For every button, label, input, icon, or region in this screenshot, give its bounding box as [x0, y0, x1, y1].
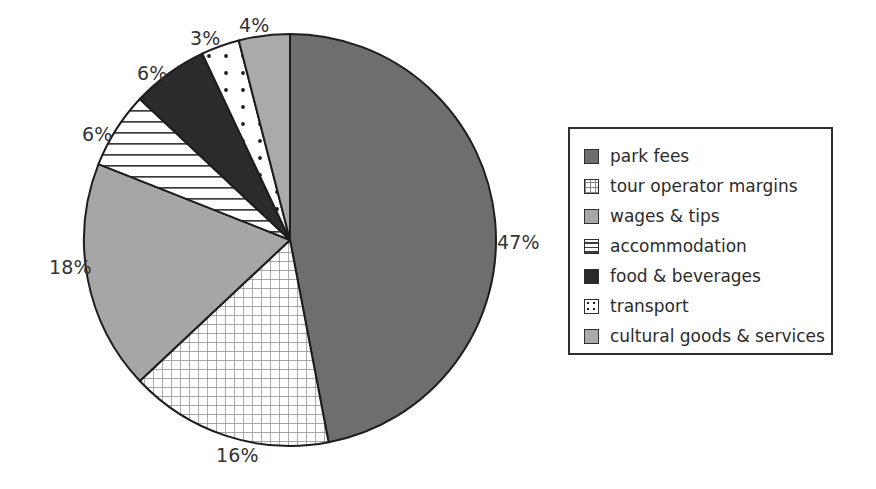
swatch-dotted-icon [584, 299, 599, 314]
legend-item-food-beverages[interactable]: food & beverages [584, 261, 831, 291]
legend-item-label: cultural goods & services [610, 328, 825, 345]
swatch-solid-black-icon [584, 269, 599, 284]
legend-item-cultural-goods-services[interactable]: cultural goods & services [584, 321, 831, 351]
swatch-solid-light-gray-icon [584, 209, 599, 224]
legend-item-wages-tips[interactable]: wages & tips [584, 201, 831, 231]
pie-chart-figure: 47%16%18%6%6%3%4% park feestour operator… [0, 0, 876, 489]
swatch-horizontal-lines-icon [584, 239, 599, 254]
swatch-grid-hatch-icon [584, 179, 599, 194]
pie-value-label: 18% [49, 256, 92, 278]
pie-slices-group [84, 34, 496, 446]
pie-slice-park-fees[interactable] [290, 34, 496, 442]
pie-value-label: 4% [239, 14, 270, 36]
legend-item-label: accommodation [610, 238, 747, 255]
legend-item-label: tour operator margins [610, 178, 798, 195]
pie-value-label: 16% [216, 444, 259, 466]
legend-item-label: food & beverages [610, 268, 761, 285]
legend-item-label: wages & tips [610, 208, 720, 225]
pie-value-label: 6% [82, 123, 113, 145]
legend-item-tour-operator-margins[interactable]: tour operator margins [584, 171, 831, 201]
swatch-solid-dark-gray-icon [584, 149, 599, 164]
legend-item-park-fees[interactable]: park fees [584, 141, 831, 171]
legend-item-label: park fees [610, 148, 689, 165]
legend-item-accommodation[interactable]: accommodation [584, 231, 831, 261]
pie-value-label: 47% [497, 231, 540, 253]
swatch-solid-mid-gray-icon [584, 329, 599, 344]
legend-item-label: transport [610, 298, 689, 315]
chart-legend: park feestour operator marginswages & ti… [568, 127, 833, 355]
pie-value-label: 3% [190, 27, 221, 49]
legend-item-transport[interactable]: transport [584, 291, 831, 321]
pie-value-label: 6% [137, 62, 168, 84]
